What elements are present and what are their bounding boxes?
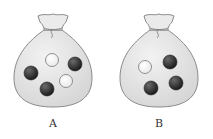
- bag-b-label: B: [106, 117, 212, 130]
- ball-white: [46, 54, 59, 67]
- bag-a-label: A: [0, 117, 106, 130]
- ball-white: [139, 61, 152, 74]
- ball-black: [40, 82, 54, 96]
- ball-black: [24, 66, 38, 80]
- ball-black: [68, 57, 82, 71]
- bag-body: [120, 30, 198, 107]
- ball-black: [169, 76, 183, 90]
- ball-white: [60, 75, 73, 88]
- bag-a: A: [0, 0, 106, 139]
- bag-neck: [144, 14, 174, 30]
- ball-black: [163, 55, 177, 69]
- bag-b: B: [106, 0, 212, 139]
- ball-black: [144, 81, 158, 95]
- bag-neck: [38, 14, 68, 30]
